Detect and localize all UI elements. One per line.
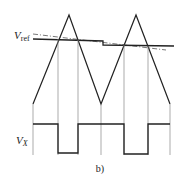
crossing-guides	[33, 39, 170, 155]
triangle-carrier	[33, 15, 170, 104]
vx-square-wave	[33, 124, 170, 154]
figure-caption: b)	[96, 163, 104, 175]
vref-label: Vref	[14, 29, 30, 43]
vx-label: VX	[16, 134, 29, 148]
pwm-diagram: Vref VX b)	[0, 0, 183, 185]
vref-sampled-line	[33, 39, 174, 46]
